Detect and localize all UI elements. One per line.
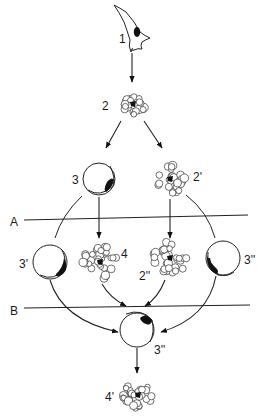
cluster-cell [79,258,87,266]
label-4: 4 [121,247,128,261]
cluster-cell [140,107,146,113]
label-3p: 3' [19,257,28,271]
cluster-cell [103,244,110,251]
cluster-cell [131,112,137,118]
cluster-cell [174,179,182,187]
label-2pp: 2'' [139,269,150,283]
node-2-cell-cluster [121,94,148,117]
cluster-cell [165,183,172,190]
label-2: 2 [102,99,109,113]
cluster-cell [169,190,176,197]
cluster-cell [139,386,146,393]
cluster-cell [136,99,143,106]
cluster-cell [168,164,175,171]
node-4-cell-cluster [79,243,120,282]
label-B: B [10,304,18,318]
label-4p: 4' [105,390,114,404]
cluster-cell [165,265,172,272]
nucleus-icon [134,27,140,37]
cluster-cell [110,255,116,261]
cluster-cell [167,246,173,252]
cluster-cell [123,385,128,390]
node-1-fibroblast-cell: 1 [114,5,150,52]
cluster-cell [176,188,182,194]
node-2p-cell-cluster [155,161,189,196]
cluster-cell [151,254,158,261]
label-1: 1 [119,32,126,46]
arrow-2pp-to-3pp-bottom [145,280,165,306]
cluster-cell [130,402,138,410]
label-2p: 2' [193,170,202,184]
cluster-cell [148,393,155,400]
cluster-cell [156,180,163,187]
node-3p-round-cell: 3' [19,245,67,279]
label-3pp-bottom: 3'' [154,343,165,357]
label-A: A [10,215,18,229]
curve-3-to-3p [55,196,82,238]
node-3pp-right-round-cell: 3'' [206,241,255,276]
arrow-4-to-3pp-bottom [102,284,126,306]
curve-3p-to-3pp-bottom [50,280,118,332]
barrier-A: A [10,215,248,229]
curve-3pp-right-to-3pp-bottom [161,276,216,332]
cluster-cell [156,172,163,179]
node-4p-cell-cluster [119,383,155,411]
node-2pp-cell-cluster [150,238,190,276]
cluster-cell [101,271,109,279]
cell-differentiation-diagram: 1 2 3 2' A 3' 4 2'' 3' [0,0,262,418]
cluster-cell [180,174,188,182]
cluster-cell [172,268,178,274]
cluster-cell [179,265,186,272]
cluster-cell [90,251,96,257]
cluster-cell [176,255,182,261]
cluster-cell [122,103,128,109]
arrow-2-to-3 [106,121,121,148]
arrow-2-to-2p [144,121,162,148]
cluster-cell [107,265,115,273]
label-3pp-right: 3'' [244,253,255,267]
cluster-cell [183,255,190,262]
barrier-B: B [10,304,250,318]
node-3-round-cell: 3 [72,163,115,195]
node-3pp-bottom-round-cell: 3'' [120,312,165,357]
label-3: 3 [72,173,79,187]
